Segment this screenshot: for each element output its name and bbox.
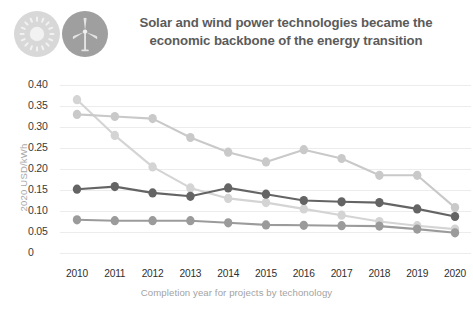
series-data-point: [413, 204, 421, 213]
series-data-point: [262, 190, 270, 199]
page-title-line2: economic backbone of the energy transiti…: [150, 33, 423, 48]
series-data-point: [224, 194, 232, 203]
page-title-line1: Solar and wind power technologies became…: [139, 15, 432, 30]
series-data-point: [262, 157, 270, 166]
chart-plot-area: 2020 USD/kWh 0.400.350.300.250.200.150.1…: [0, 72, 473, 314]
series-data-point: [300, 145, 308, 154]
series-data-point: [148, 216, 156, 225]
series-data-point: [451, 212, 459, 221]
series-data-point: [111, 182, 119, 191]
series-data-point: [186, 183, 194, 192]
chart-page: Solar and wind power technologies became…: [0, 0, 473, 314]
series-data-point: [337, 197, 345, 206]
series-data-point: [186, 216, 194, 225]
series-data-point: [73, 215, 81, 224]
series-data-point: [337, 221, 345, 230]
series-data-point: [262, 220, 270, 229]
series-data-point: [73, 95, 81, 104]
series-data-point: [413, 171, 421, 180]
series-data-point: [300, 196, 308, 205]
series-data-point: [375, 198, 383, 207]
technology-icons: [14, 11, 106, 59]
series-data-point: [148, 188, 156, 197]
series-data-point: [262, 198, 270, 207]
series-data-point: [148, 114, 156, 123]
series-data-point: [375, 222, 383, 231]
series-data-point: [111, 216, 119, 225]
series-data-point: [413, 225, 421, 234]
series-data-point: [451, 203, 459, 212]
series-data-point: [300, 204, 308, 213]
series-data-point: [337, 154, 345, 163]
solar-sun-icon: [14, 11, 60, 57]
series-data-point: [186, 133, 194, 142]
series-data-point: [375, 171, 383, 180]
page-title: Solar and wind power technologies became…: [112, 14, 460, 49]
series-data-point: [111, 112, 119, 121]
chart-series-canvas: [0, 72, 473, 314]
chart-series-series-mid-gray-low: [73, 215, 459, 237]
x-axis-label: Completion year for projects by techonol…: [0, 287, 473, 298]
series-data-point: [186, 192, 194, 201]
series-data-point: [224, 148, 232, 157]
series-data-point: [337, 211, 345, 220]
series-data-point: [111, 131, 119, 140]
series-data-point: [148, 162, 156, 171]
series-data-point: [73, 185, 81, 194]
wind-turbine-icon: [62, 11, 108, 57]
series-data-point: [451, 228, 459, 237]
series-data-point: [224, 183, 232, 192]
series-data-point: [73, 110, 81, 119]
chart-header: Solar and wind power technologies became…: [0, 0, 473, 72]
series-data-point: [300, 221, 308, 230]
series-data-point: [224, 218, 232, 227]
